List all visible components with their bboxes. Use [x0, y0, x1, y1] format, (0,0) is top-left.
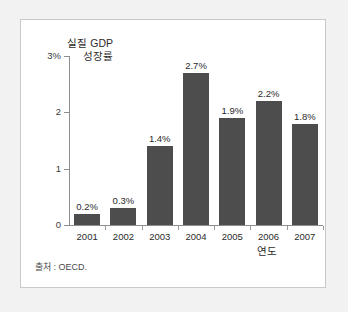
- source-note: 출처 : OECD.: [35, 260, 87, 273]
- y-tick-label: 3%: [35, 50, 61, 61]
- x-tick-mark: [323, 226, 324, 230]
- bar-value-label: 0.2%: [68, 201, 106, 212]
- x-tick-mark: [142, 226, 143, 230]
- x-axis-title: 연도: [257, 243, 277, 258]
- x-tick-label: 2002: [105, 231, 141, 242]
- bar-value-label: 1.4%: [141, 133, 179, 144]
- x-tick-label: 2001: [69, 231, 105, 242]
- chart-figure: 실질 GDP 성장률 연도 0123% 20012002200320042005…: [0, 0, 348, 312]
- bar[interactable]: [147, 146, 173, 225]
- x-tick-mark: [105, 226, 106, 230]
- bar-value-label: 2.2%: [250, 88, 288, 99]
- chart-frame: 실질 GDP 성장률 연도 0123% 20012002200320042005…: [20, 19, 326, 288]
- y-tick-label: 1: [35, 163, 61, 174]
- x-tick-label: 2006: [251, 231, 287, 242]
- x-tick-mark: [250, 226, 251, 230]
- x-tick-label: 2004: [178, 231, 214, 242]
- bar-value-label: 0.3%: [104, 195, 142, 206]
- x-tick-label: 2003: [142, 231, 178, 242]
- y-tick-label: 0: [35, 219, 61, 230]
- x-tick-mark: [214, 226, 215, 230]
- bar[interactable]: [256, 101, 282, 225]
- y-tick-mark: [64, 225, 70, 226]
- plot-area: 0.2%0.3%1.4%2.7%1.9%2.2%1.8%: [69, 56, 323, 225]
- x-tick-label: 2005: [214, 231, 250, 242]
- x-tick-mark: [287, 226, 288, 230]
- bar-value-label: 1.8%: [286, 111, 324, 122]
- bar-value-label: 1.9%: [213, 105, 251, 116]
- bar[interactable]: [292, 124, 318, 225]
- bar[interactable]: [219, 118, 245, 225]
- y-tick-label: 2: [35, 106, 61, 117]
- x-tick-label: 2007: [287, 231, 323, 242]
- x-axis-line: [69, 225, 323, 226]
- bar[interactable]: [74, 214, 100, 225]
- bar[interactable]: [110, 208, 136, 225]
- bar-value-label: 2.7%: [177, 60, 215, 71]
- bar[interactable]: [183, 73, 209, 225]
- x-tick-mark: [178, 226, 179, 230]
